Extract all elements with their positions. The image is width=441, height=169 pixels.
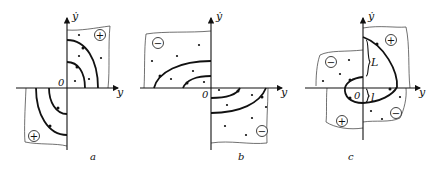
svg-text:+: + [96, 30, 104, 41]
x-axis-label: y [116, 86, 124, 99]
brace-L [366, 40, 370, 76]
svg-text:−: − [392, 108, 400, 119]
plus-sign-region-q1: + [95, 30, 106, 42]
plus-sign-region-q3: + [29, 131, 40, 143]
minus-sign-region-q4: − [257, 126, 268, 138]
svg-text:+: + [338, 116, 346, 127]
panel-caption-a: a [90, 151, 96, 162]
origin-label: 0 [202, 89, 209, 100]
panel-c: + − + − ẏ 0 y L l c [305, 10, 426, 162]
minus-sign-region-q4: − [391, 108, 402, 120]
phase-portrait-figure: + + ẏ 0 y a [0, 0, 441, 169]
trajectory-inner-q3 [49, 88, 67, 114]
origin-label: 0 [354, 90, 361, 101]
panel-a: + + ẏ 0 y a [16, 10, 124, 162]
svg-text:−: − [154, 38, 162, 49]
trajectory-inner-q4 [211, 88, 240, 98]
minus-sign-region-q2: − [326, 57, 337, 69]
svg-text:+: + [387, 35, 395, 46]
svg-text:−: − [327, 57, 335, 68]
origin-label: 0 [58, 77, 65, 88]
plus-sign-region-q1: + [386, 35, 397, 47]
panel-b: − − ẏ 0 y b [140, 10, 288, 162]
y-dot-axis-label: ẏ [71, 10, 79, 23]
x-axis-label: y [280, 86, 288, 99]
segment-label-l: l [371, 91, 375, 104]
panel-caption-b: b [238, 151, 244, 162]
svg-text:+: + [30, 131, 38, 142]
y-dot-axis-label: ẏ [367, 10, 375, 23]
minus-sign-region-q2: − [153, 38, 164, 50]
brace-l [366, 89, 369, 102]
plus-sign-region-q3: + [337, 116, 348, 128]
trajectory-outer-q3 [36, 88, 67, 135]
segment-label-L: L [370, 56, 378, 69]
trajectory-outer-q2 [154, 61, 211, 88]
svg-text:−: − [258, 126, 266, 137]
panel-caption-c: c [348, 151, 354, 162]
x-axis-label: y [418, 86, 426, 99]
y-dot-axis-label: ẏ [215, 10, 223, 23]
